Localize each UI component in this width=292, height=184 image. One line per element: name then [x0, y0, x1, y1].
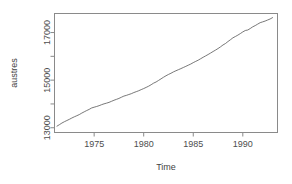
x-axis-title: Time	[156, 162, 176, 172]
y-axis-tick-labels: 130001500017000	[43, 20, 53, 140]
y-tick-label: 13000	[43, 115, 53, 140]
chart-plot-area: 130001500017000 1975198019851990 Time au…	[0, 0, 292, 184]
y-axis-title: austres	[9, 58, 19, 88]
x-tick-label: 1980	[134, 139, 154, 149]
y-tick-label: 15000	[43, 68, 53, 93]
x-tick-label: 1985	[183, 139, 203, 149]
chart-canvas: 130001500017000 1975198019851990 Time au…	[0, 0, 292, 184]
y-tick-label: 17000	[43, 20, 53, 45]
x-tick-label: 1975	[84, 139, 104, 149]
x-tick-label: 1990	[233, 139, 253, 149]
